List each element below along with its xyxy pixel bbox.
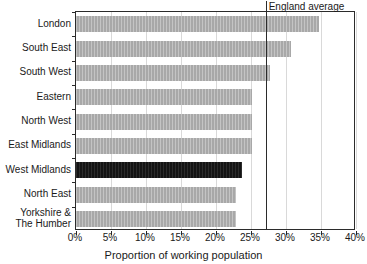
x-axis-tick-label: 0% <box>68 232 82 243</box>
bar-l-o-n-d-o-n <box>76 16 319 32</box>
bar-y-o-r-k-s-h-i-r-e-t-h-e-h-u-m-b-e-r <box>76 211 236 227</box>
bar-row <box>76 41 356 57</box>
x-axis-tick-label: 30% <box>275 232 295 243</box>
bar-row <box>76 16 356 32</box>
y-axis-label: South East <box>22 42 71 53</box>
y-axis-tick <box>72 109 76 110</box>
y-axis-label: North West <box>21 115 71 126</box>
x-axis-tick-label: 15% <box>170 232 190 243</box>
y-axis-tick <box>72 85 76 86</box>
y-axis-tick <box>72 207 76 208</box>
england-average-label: England average <box>265 1 345 12</box>
plot-area <box>75 11 355 230</box>
bar-row <box>76 211 356 227</box>
y-axis-tick <box>72 158 76 159</box>
bar-row <box>76 138 356 154</box>
y-axis-label: South West <box>19 66 71 77</box>
y-axis-label: Yorkshire & The Humber <box>15 207 71 229</box>
bar-s-o-u-t-h-e-a-s-t <box>76 41 291 57</box>
x-axis-tick-label: 10% <box>135 232 155 243</box>
x-axis-tick-label: 25% <box>240 232 260 243</box>
y-axis-label: West Midlands <box>6 164 71 175</box>
bar-chart: Proportion of working population LondonS… <box>0 0 367 264</box>
bar-n-o-r-t-h-w-e-s-t <box>76 114 252 130</box>
bar-row <box>76 162 356 178</box>
y-axis-tick <box>72 36 76 37</box>
bar-e-a-s-t-m-i-d-l-a-n-d-s <box>76 138 252 154</box>
gridline <box>356 12 357 229</box>
bar-n-o-r-t-h-e-a-s-t <box>76 187 236 203</box>
x-axis-tick-label: 20% <box>205 232 225 243</box>
x-axis-tick-label: 5% <box>103 232 117 243</box>
bar-w-e-s-t-m-i-d-l-a-n-d-s <box>76 162 242 178</box>
y-axis-label: London <box>38 18 71 29</box>
y-axis-tick <box>72 134 76 135</box>
y-axis-label: Eastern <box>37 91 71 102</box>
y-axis-tick <box>72 182 76 183</box>
y-axis-tick <box>72 61 76 62</box>
y-axis-label: East Midlands <box>8 139 71 150</box>
bar-s-o-u-t-h-w-e-s-t <box>76 65 270 81</box>
bar-row <box>76 114 356 130</box>
bar-row <box>76 89 356 105</box>
x-axis-tick-label: 35% <box>310 232 330 243</box>
bar-e-a-s-t-e-r-n <box>76 89 252 105</box>
y-axis-tick <box>72 12 76 13</box>
england-average-line <box>266 1 267 229</box>
x-axis-title: Proportion of working population <box>0 249 367 261</box>
bar-row <box>76 65 356 81</box>
bar-row <box>76 187 356 203</box>
x-axis-tick-label: 40% <box>345 232 365 243</box>
y-axis-label: North East <box>24 188 71 199</box>
